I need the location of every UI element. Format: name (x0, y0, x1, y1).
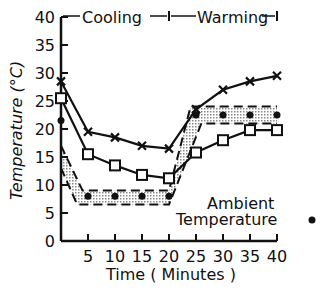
square-marker (191, 148, 201, 158)
temperature-chart: 0510152025303540510152025303540 Cooling … (0, 0, 321, 298)
square-marker (83, 149, 93, 159)
square-marker (164, 173, 174, 183)
square-marker (218, 135, 228, 145)
y-tick-label: 0 (45, 232, 55, 251)
y-tick-label: 20 (35, 120, 55, 139)
y-tick-label: 30 (35, 64, 55, 83)
phase-label-warming: Warming (197, 8, 268, 27)
ambient-dot-marker (247, 112, 254, 119)
y-tick-label: 10 (35, 176, 55, 195)
ambient-dot-marker (220, 112, 227, 119)
y-tick-label: 35 (35, 36, 55, 55)
ambient-dot-marker (139, 193, 146, 200)
x-tick-label: 5 (83, 247, 93, 266)
ambient-dot-marker (166, 193, 173, 200)
square-marker (272, 125, 282, 135)
square-marker (137, 170, 147, 180)
x-tick-label: 30 (213, 247, 233, 266)
y-tick-label: 15 (35, 148, 55, 167)
ambient-dot-marker (58, 117, 65, 124)
x-tick-label: 25 (186, 247, 206, 266)
x-tick-label: 10 (105, 247, 125, 266)
y-axis-label: Temperature (°C) (7, 61, 26, 200)
ambient-legend-dot (309, 217, 316, 224)
x-tick-label: 20 (159, 247, 179, 266)
x-tick-label: 35 (240, 247, 260, 266)
x-axis-label: Time ( Minutes ) (105, 265, 236, 284)
x-tick-label: 15 (132, 247, 152, 266)
y-tick-label: 40 (35, 8, 55, 27)
y-tick-label: 25 (35, 92, 55, 111)
x-tick-label: 40 (267, 247, 287, 266)
ambient-label-line2: Temperature (175, 210, 277, 229)
ambient-dot-marker (85, 193, 92, 200)
phase-label-cooling: Cooling (82, 8, 142, 27)
ambient-dot-marker (193, 112, 200, 119)
y-tick-label: 5 (45, 204, 55, 223)
square-marker (245, 125, 255, 135)
square-marker (56, 93, 66, 103)
ambient-dot-marker (274, 112, 281, 119)
square-marker (110, 160, 120, 170)
ambient-dot-marker (112, 193, 119, 200)
